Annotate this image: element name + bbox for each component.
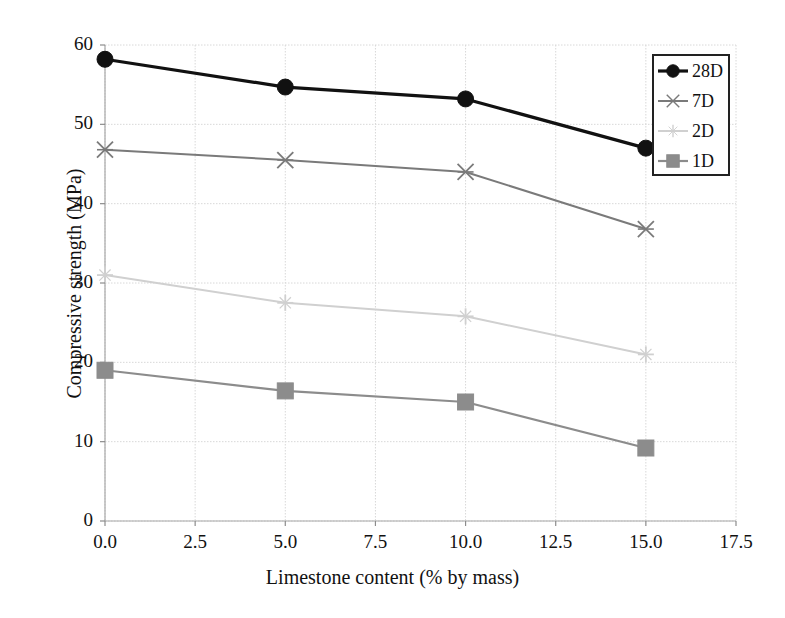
legend-label-28d: 28D <box>692 62 723 80</box>
x-tick-label: 12.5 <box>521 531 591 553</box>
x-tick-label: 15.0 <box>611 531 681 553</box>
x-tick-label: 7.5 <box>340 531 410 553</box>
y-axis-title: Compressive strength (MPa) <box>63 44 86 524</box>
legend-item-7d[interactable]: 7D <box>654 86 728 116</box>
legend-marker-plus-icon <box>657 121 689 141</box>
x-tick-label: 0.0 <box>70 531 140 553</box>
legend-label-7d: 7D <box>692 92 714 110</box>
chart-figure: 0102030405060 0.02.55.07.510.012.515.017… <box>0 0 785 618</box>
x-tick-label: 17.5 <box>701 531 771 553</box>
x-axis-title: Limestone content (% by mass) <box>0 566 785 589</box>
x-tick-label: 10.0 <box>431 531 501 553</box>
x-tick-label: 5.0 <box>250 531 320 553</box>
legend-item-1d[interactable]: 1D <box>654 146 728 176</box>
legend-marker-x-icon <box>657 91 689 111</box>
legend-label-1d: 1D <box>692 152 714 170</box>
legend-marker-square-icon <box>657 151 689 171</box>
legend-marker-circle-icon <box>657 61 689 81</box>
legend-label-2d: 2D <box>692 122 714 140</box>
legend-item-28d[interactable]: 28D <box>654 56 728 86</box>
x-tick-label: 2.5 <box>160 531 230 553</box>
chart-legend: 28D 7D 2D 1D <box>652 54 730 176</box>
legend-item-2d[interactable]: 2D <box>654 116 728 146</box>
